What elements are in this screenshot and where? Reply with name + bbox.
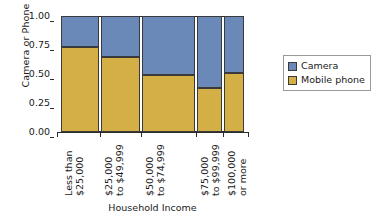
- x-tick-mark: [57, 132, 58, 137]
- legend-item[interactable]: Camera: [288, 59, 365, 73]
- y-tick-mark: [50, 50, 54, 51]
- x-axis-title: Household Income: [61, 202, 244, 213]
- x-axis-line: [57, 132, 248, 133]
- plot-area: [61, 16, 244, 132]
- y-tick-mark: [50, 21, 54, 22]
- y-tick-label: 0.50: [16, 69, 50, 79]
- bar-segment-mobile-phone: [142, 75, 195, 132]
- x-tick-mark: [248, 132, 249, 137]
- bar-segment-mobile-phone: [197, 88, 223, 132]
- x-axis-tick-labels: Less than$25,000$25,000to $49,999$50,000…: [61, 138, 244, 200]
- bar-segment-camera: [61, 16, 99, 47]
- bar-group: [224, 16, 244, 132]
- bar-segment-mobile-phone: [224, 73, 244, 132]
- mosaic-chart: Camera or Phone 0.000.250.500.751.00 Les…: [0, 0, 385, 219]
- x-tick-mark: [100, 132, 101, 137]
- bar-group: [197, 16, 223, 132]
- chart-legend: CameraMobile phone: [283, 55, 371, 91]
- bar-group: [61, 16, 99, 132]
- bar-segment-camera: [224, 16, 244, 73]
- bar-segment-camera: [142, 16, 195, 75]
- bar-segment-camera: [197, 16, 223, 88]
- y-tick-label: 0.00: [16, 127, 50, 137]
- bar-segment-mobile-phone: [101, 57, 140, 132]
- bar-segment-mobile-phone: [61, 47, 99, 132]
- y-tick-mark: [50, 137, 54, 138]
- y-tick-mark: [50, 79, 54, 80]
- x-tick-mark: [196, 132, 197, 137]
- legend-swatch-icon: [288, 76, 297, 85]
- x-tick-mark: [223, 132, 224, 137]
- bar-segment-camera: [101, 16, 140, 57]
- y-tick-label: 0.25: [16, 98, 50, 108]
- legend-swatch-icon: [288, 62, 297, 71]
- y-axis-ticks: 0.000.250.500.751.00: [20, 10, 54, 138]
- bar-group: [101, 16, 140, 132]
- legend-label: Camera: [301, 61, 338, 71]
- y-tick-mark: [50, 108, 54, 109]
- x-tick-mark: [141, 132, 142, 137]
- legend-label: Mobile phone: [301, 75, 365, 85]
- legend-item[interactable]: Mobile phone: [288, 73, 365, 87]
- bar-group: [142, 16, 195, 132]
- y-tick-label: 1.00: [16, 11, 50, 21]
- y-tick-label: 0.75: [16, 40, 50, 50]
